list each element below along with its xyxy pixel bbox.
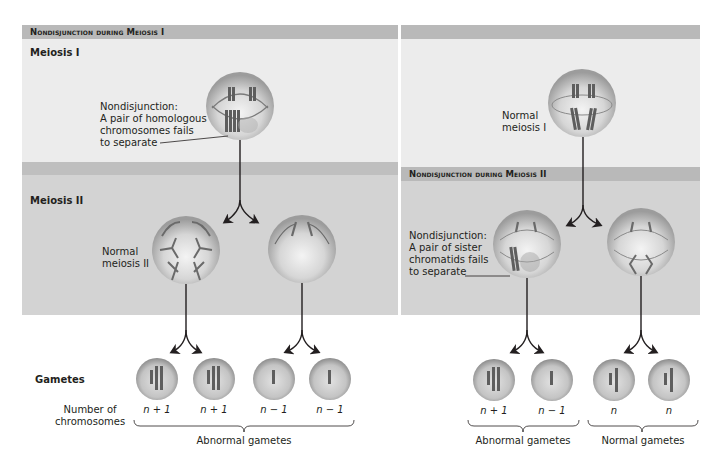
gamete-left-1	[136, 358, 178, 400]
count-left-1: n + 1	[137, 404, 177, 415]
bracket-right-abnormal	[468, 420, 579, 432]
cell-meiosis2-right-b	[607, 208, 675, 276]
gamete-right-4	[648, 359, 690, 401]
count-left-2: n + 1	[194, 404, 234, 415]
cell-meiosis1-left	[206, 72, 274, 140]
count-right-2: n − 1	[532, 405, 572, 416]
cell-meiosis2-left-a	[152, 216, 220, 284]
count-right-3: n	[594, 405, 634, 416]
count-left-4: n − 1	[310, 404, 350, 415]
gamete-right-3	[593, 359, 635, 401]
pointer-line-homologous	[160, 136, 228, 143]
gamete-left-3	[253, 358, 295, 400]
bracket-left	[134, 420, 354, 432]
gamete-left-2	[193, 358, 235, 400]
count-right-4: n	[649, 405, 689, 416]
count-left-3: n − 1	[254, 404, 294, 415]
label-left-abnormal-gametes: Abnormal gametes	[194, 435, 294, 446]
cell-meiosis2-right-a	[493, 210, 561, 278]
label-right-normal-gametes: Normal gametes	[593, 435, 693, 446]
gamete-left-4	[309, 358, 351, 400]
gamete-right-1	[473, 359, 515, 401]
cell-meiosis1-right	[548, 69, 616, 137]
count-right-1: n + 1	[474, 405, 514, 416]
gamete-right-2	[531, 359, 573, 401]
bracket-right-normal	[588, 420, 698, 432]
cell-meiosis2-left-b	[268, 215, 336, 283]
label-right-abnormal-gametes: Abnormal gametes	[473, 435, 573, 446]
diagram-graphics	[0, 0, 718, 464]
